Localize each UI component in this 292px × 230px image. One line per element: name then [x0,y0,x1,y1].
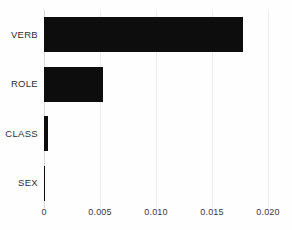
bar-row [44,116,268,151]
x-tick-label-0.015: 0.015 [200,207,224,217]
x-tick-label-0.005: 0.005 [88,207,112,217]
y-axis-label-sex: SEX [0,177,38,188]
bar-row [44,67,268,102]
y-axis-label-verb: VERB [0,29,38,40]
x-axis-labels: 00.0050.0100.0150.020 [0,207,292,223]
x-tick-label-0.010: 0.010 [144,207,168,217]
y-axis-labels: VERBROLECLASSSEX [0,10,44,208]
y-axis-label-role: ROLE [0,78,38,89]
x-tick-label-0.020: 0.020 [256,207,280,217]
bar-row [44,166,268,201]
plot-area [44,10,268,208]
bar-sex [44,166,45,201]
x-tick-label-0: 0 [41,207,46,217]
gridline-0.020 [268,10,269,208]
bar-verb [44,17,243,52]
y-axis-label-class: CLASS [0,128,38,139]
bar-role [44,67,103,102]
bar-class [44,116,48,151]
bar-chart: VERBROLECLASSSEX 00.0050.0100.0150.020 [0,0,292,230]
bar-row [44,17,268,52]
